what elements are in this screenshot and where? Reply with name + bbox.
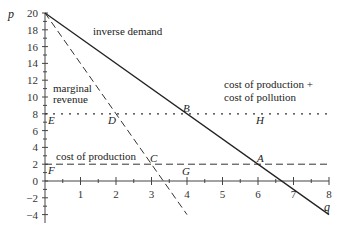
svg-text:6: 6 (255, 188, 261, 200)
point-C: C (150, 152, 158, 164)
inverse-demand-label: inverse demand (93, 25, 163, 37)
economics-chart: 20 18 16 14 12 10 8 6 4 2 0 −2 −4 1 2 3 … (0, 0, 348, 230)
svg-text:8: 8 (326, 188, 332, 200)
svg-text:14: 14 (27, 57, 39, 69)
y-tick-labels: 20 18 16 14 12 10 8 6 4 2 0 −2 −4 (26, 7, 38, 221)
svg-text:3: 3 (149, 188, 155, 200)
svg-text:−4: −4 (26, 209, 38, 221)
marginal-revenue-label-2: revenue (53, 93, 88, 105)
cost-pollution-label-2: cost of pollution (224, 91, 297, 103)
svg-text:18: 18 (27, 24, 39, 36)
svg-text:10: 10 (27, 91, 39, 103)
point-H: H (255, 114, 265, 126)
svg-text:2: 2 (33, 158, 39, 170)
svg-text:0: 0 (33, 175, 39, 187)
svg-text:−2: −2 (26, 192, 38, 204)
cost-pollution-label-1: cost of production + (224, 78, 313, 90)
point-A: A (256, 152, 264, 164)
svg-text:6: 6 (33, 125, 39, 137)
svg-text:1: 1 (78, 188, 84, 200)
point-G: G (182, 165, 190, 177)
svg-text:4: 4 (184, 188, 190, 200)
svg-text:4: 4 (33, 141, 39, 153)
point-B: B (183, 102, 190, 114)
point-D: D (107, 114, 116, 126)
point-F: F (47, 164, 55, 176)
svg-text:16: 16 (27, 41, 39, 53)
point-E: E (47, 114, 55, 126)
svg-text:12: 12 (27, 74, 38, 86)
p-axis-label: p (7, 7, 14, 21)
svg-text:20: 20 (27, 7, 39, 19)
svg-text:5: 5 (220, 188, 226, 200)
svg-text:8: 8 (33, 108, 39, 120)
svg-text:2: 2 (113, 188, 119, 200)
cost-of-production-label: cost of production (56, 150, 137, 162)
